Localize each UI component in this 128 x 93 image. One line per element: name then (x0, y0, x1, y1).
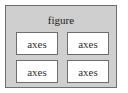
axes-bottom-left: axes (16, 60, 58, 83)
figure-container: figure axes axes axes axes (5, 5, 117, 88)
figure-label: figure (6, 14, 116, 26)
axes-bottom-right: axes (67, 60, 109, 83)
axes-top-right: axes (67, 32, 109, 55)
axes-top-left: axes (16, 32, 58, 55)
